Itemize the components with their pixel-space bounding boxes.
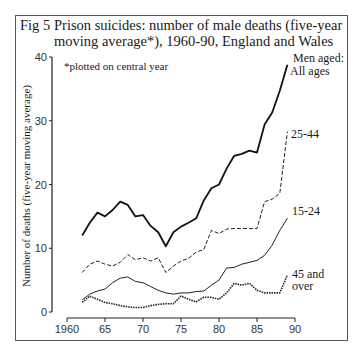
x-tick-label: 85 bbox=[251, 323, 263, 335]
label-all-ages: All ages bbox=[290, 64, 330, 78]
series-lines bbox=[82, 65, 287, 308]
y-tick-label: 20 bbox=[35, 179, 47, 191]
x-tick-label: 1960 bbox=[55, 323, 79, 335]
x-tick-label: 65 bbox=[99, 323, 111, 335]
y-tick-label: 10 bbox=[35, 242, 47, 254]
y-axis-label: Number of deaths (five-year moving avera… bbox=[20, 85, 33, 287]
series-line-45-and-over bbox=[82, 275, 287, 308]
x-tick-label: 70 bbox=[137, 323, 149, 335]
label-45-and-over-line2: over bbox=[292, 279, 313, 293]
y-tick-label: 40 bbox=[35, 51, 47, 63]
series-labels: All ages25-4415-2445 andover bbox=[290, 64, 330, 293]
plot-note: *plotted on central year bbox=[64, 60, 168, 72]
y-tick-label: 30 bbox=[35, 115, 47, 127]
line-chart: 0102030401960657075808590Number of death… bbox=[0, 0, 358, 359]
x-tick-label: 90 bbox=[289, 323, 301, 335]
series-line-15-24 bbox=[82, 218, 287, 300]
label-25-44: 25-44 bbox=[291, 127, 319, 141]
label-15-24: 15-24 bbox=[292, 204, 320, 218]
x-tick-label: 75 bbox=[175, 323, 187, 335]
series-line-all-ages bbox=[82, 65, 287, 247]
legend-header: Men aged: bbox=[293, 51, 344, 65]
y-tick-label: 0 bbox=[41, 306, 47, 318]
x-tick-label: 80 bbox=[213, 323, 225, 335]
